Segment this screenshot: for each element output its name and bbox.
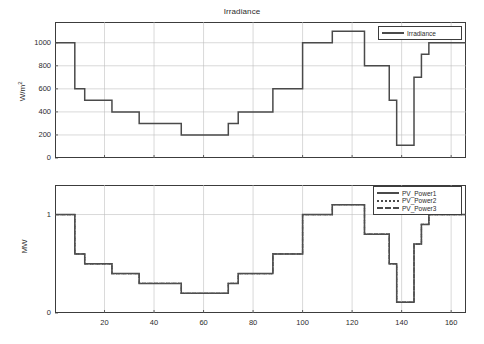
legend-swatch-solid-icon — [382, 30, 404, 37]
figure-canvas: Irradiance W/m2 02004006008001000 Irradi… — [0, 0, 484, 344]
legend-item-pv-power-1[interactable]: PV_Power1 — [377, 190, 458, 197]
x-tick-label: 140 — [387, 318, 417, 327]
x-tick-label: 20 — [90, 318, 120, 327]
legend-item-irradiance[interactable]: Irradiance — [382, 30, 458, 37]
x-tick-label: 160 — [436, 318, 466, 327]
x-tick-label: 40 — [139, 318, 169, 327]
legend-swatch-dashed-icon — [377, 205, 399, 212]
legend-label-pv-power-1: PV_Power1 — [402, 190, 436, 197]
legend-label-pv-power-3: PV_Power3 — [402, 205, 436, 212]
series-line-pv_power3 — [55, 205, 466, 302]
legend-label-irradiance: Irradiance — [407, 30, 436, 37]
x-tick-label: 100 — [288, 318, 318, 327]
chart-panel-pv-power: MW 01 20406080100120140160 PV_Power1 PV_… — [0, 172, 484, 344]
legend-swatch-solid-icon — [377, 190, 399, 197]
series-line-pv_power2 — [55, 205, 466, 302]
chart-panel-irradiance: Irradiance W/m2 02004006008001000 Irradi… — [0, 0, 484, 172]
y-tick-label: 400 — [3, 107, 51, 116]
series-line-irradiance — [55, 31, 466, 145]
legend-item-pv-power-2[interactable]: PV_Power2 — [377, 197, 458, 204]
legend-irradiance[interactable]: Irradiance — [378, 26, 462, 40]
legend-label-pv-power-2: PV_Power2 — [402, 197, 436, 204]
x-tick-label: 80 — [238, 318, 268, 327]
legend-pv-power[interactable]: PV_Power1 PV_Power2 PV_Power3 — [373, 186, 462, 215]
y-tick-label: 600 — [3, 84, 51, 93]
y-tick-label: 0 — [3, 308, 51, 317]
y-tick-label: 1 — [3, 210, 51, 219]
series-line-pv_power1 — [55, 205, 466, 302]
y-tick-label: 0 — [3, 153, 51, 162]
y-tick-label: 1000 — [3, 38, 51, 47]
y-tick-label: 800 — [3, 61, 51, 70]
x-tick-label: 120 — [337, 318, 367, 327]
legend-item-pv-power-3[interactable]: PV_Power3 — [377, 205, 458, 212]
x-tick-label: 60 — [189, 318, 219, 327]
legend-swatch-dotted-icon — [377, 197, 399, 204]
y-tick-label: 200 — [3, 130, 51, 139]
